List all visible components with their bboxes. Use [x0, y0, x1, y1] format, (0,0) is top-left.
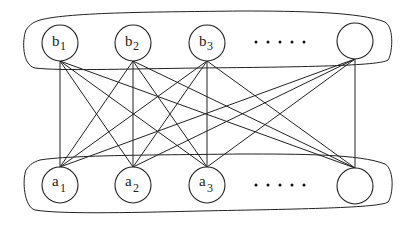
node-a3[interactable]: a 3 [189, 167, 225, 203]
bottom-ellipsis [255, 184, 306, 187]
node-b1-label: b [52, 33, 60, 49]
edge-b3-an [207, 61, 355, 168]
edge-bn-a2 [133, 59, 355, 167]
edge-b2-an [133, 61, 355, 168]
node-a1[interactable]: a 1 [42, 167, 78, 203]
node-b3-subscript: 3 [207, 39, 213, 53]
node-b2[interactable]: b 2 [115, 25, 151, 61]
node-b2-subscript: 2 [133, 39, 139, 53]
node-an[interactable] [337, 168, 373, 204]
node-a1-label: a [52, 173, 59, 189]
bipartite-diagram: b 1 b 2 b 3 a 1 a 2 a 3 [0, 0, 414, 225]
node-b2-label: b [125, 33, 133, 49]
node-a1-subscript: 1 [60, 181, 66, 195]
node-b3-label: b [199, 33, 207, 49]
node-a2-subscript: 2 [133, 181, 139, 195]
node-a2-label: a [125, 173, 132, 189]
edge-bn-a3 [207, 59, 355, 167]
node-a3-subscript: 3 [207, 181, 213, 195]
node-b1-subscript: 1 [60, 39, 66, 53]
node-b1[interactable]: b 1 [42, 25, 78, 61]
edges [60, 59, 355, 168]
top-ellipsis [255, 41, 306, 44]
node-a2[interactable]: a 2 [115, 167, 151, 203]
node-bn[interactable] [337, 23, 373, 59]
node-b3[interactable]: b 3 [189, 25, 225, 61]
node-a3-label: a [199, 173, 206, 189]
